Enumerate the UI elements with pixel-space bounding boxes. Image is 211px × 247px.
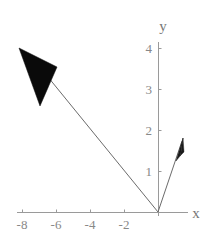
y-tick-label-3: 3 xyxy=(146,82,153,97)
y-tick-label-4: 4 xyxy=(146,41,153,56)
short-vector-shaft xyxy=(158,141,182,212)
x-axis-label: x xyxy=(192,205,200,221)
long-vector-arrowhead-icon xyxy=(19,48,57,106)
x-tick-label-minus4: -4 xyxy=(85,217,96,232)
y-tick-label-1: 1 xyxy=(146,164,153,179)
y-tick-label-2: 2 xyxy=(146,123,153,138)
x-tick-label-minus2: -2 xyxy=(119,217,130,232)
x-tick-label-minus8: -8 xyxy=(17,217,28,232)
vector-plot-svg: -8 -6 -4 -2 1 2 3 4 y x xyxy=(0,0,211,247)
vector-plot-figure: -8 -6 -4 -2 1 2 3 4 y x xyxy=(0,0,211,247)
y-axis-label: y xyxy=(159,18,167,34)
x-tick-label-minus6: -6 xyxy=(51,217,62,232)
long-vector-shaft xyxy=(48,77,158,212)
